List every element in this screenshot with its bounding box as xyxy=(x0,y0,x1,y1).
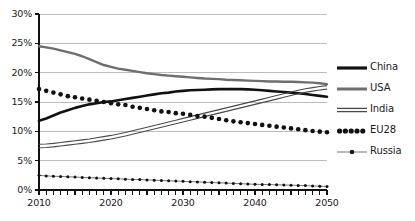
series-layer xyxy=(37,46,330,188)
legend-item-india[interactable]: India xyxy=(337,98,415,119)
legend-label: EU28 xyxy=(370,124,396,135)
legend-swatch-usa-icon xyxy=(337,81,367,95)
chart-legend: ChinaUSAIndiaEU28Russia xyxy=(337,56,415,161)
x-axis-tick-label: 2050 xyxy=(307,197,347,208)
legend-item-usa[interactable]: USA xyxy=(337,77,415,98)
legend-label: China xyxy=(370,61,398,72)
y-axis-tick-label: 5% xyxy=(0,155,32,166)
y-axis-tick-label: 0% xyxy=(0,184,32,195)
x-axis-tick-label: 2030 xyxy=(163,197,203,208)
legend-swatch-china-icon xyxy=(337,60,367,74)
legend-item-china[interactable]: China xyxy=(337,56,415,77)
series-russia xyxy=(38,174,329,188)
x-axis-tick-label: 2010 xyxy=(19,197,59,208)
x-axis-tick-label: 2020 xyxy=(91,197,131,208)
y-axis-tick-label: 20% xyxy=(0,67,32,78)
y-axis-tick-label: 15% xyxy=(0,96,32,107)
legend-label: Russia xyxy=(370,145,402,156)
y-axis-tick-label: 25% xyxy=(0,37,32,48)
legend-swatch-india-icon xyxy=(337,102,367,116)
legend-label: India xyxy=(370,103,394,114)
y-axis-tick-label: 30% xyxy=(0,8,32,19)
series-india xyxy=(39,86,327,148)
gridlines xyxy=(39,14,327,190)
x-axis-ticks xyxy=(39,190,327,195)
legend-swatch-eu28-icon xyxy=(337,123,367,137)
y-axis-tick-label: 10% xyxy=(0,125,32,136)
legend-swatch-russia-icon xyxy=(337,144,367,158)
chart-container: 30%25%20%15%10%5%0% 20102020203020402050… xyxy=(0,0,415,221)
legend-item-eu28[interactable]: EU28 xyxy=(337,119,415,140)
series-usa xyxy=(39,46,327,84)
legend-item-russia[interactable]: Russia xyxy=(337,140,415,161)
legend-label: USA xyxy=(370,82,390,93)
x-axis-tick-label: 2040 xyxy=(235,197,275,208)
